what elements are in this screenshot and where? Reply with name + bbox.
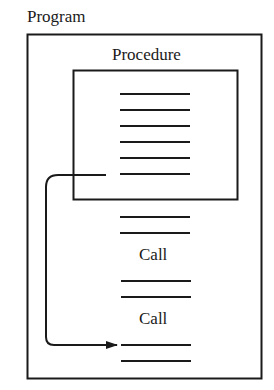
procedure-box xyxy=(74,71,238,200)
program-box xyxy=(28,35,262,379)
procedure-code-lines xyxy=(120,94,190,174)
program-code-lines xyxy=(120,217,191,361)
diagram-canvas xyxy=(0,0,274,390)
